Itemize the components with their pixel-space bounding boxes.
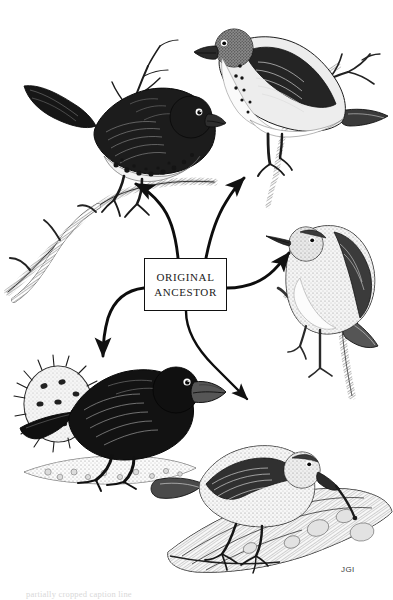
- figure-canvas: ORIGINAL ANCESTOR JGI partially cropped …: [0, 0, 393, 600]
- artist-signature: JGI: [341, 565, 355, 574]
- original-ancestor-line-2: ANCESTOR: [154, 285, 217, 300]
- original-ancestor-line-1: ORIGINAL: [157, 270, 215, 285]
- original-ancestor-box: ORIGINAL ANCESTOR: [144, 258, 227, 311]
- caption-strip: partially cropped caption line: [0, 589, 393, 600]
- caption-text: partially cropped caption line: [0, 589, 393, 599]
